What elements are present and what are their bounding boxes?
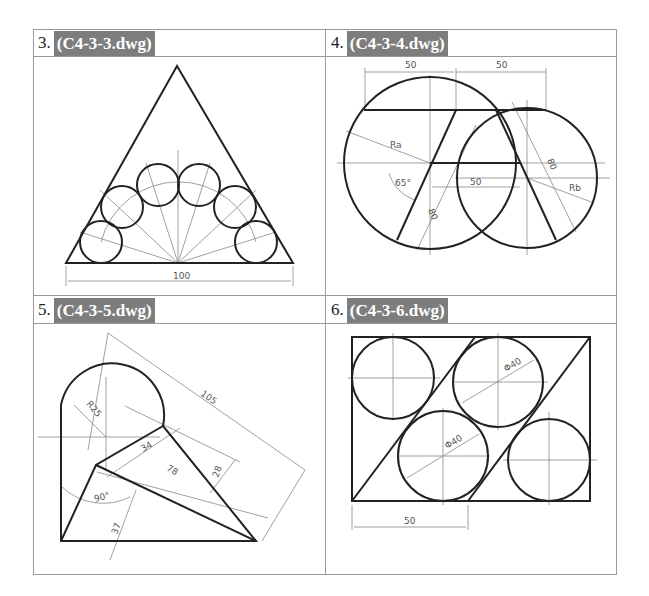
svg-text:R25: R25 — [84, 399, 103, 419]
svg-text:Ra: Ra — [390, 140, 402, 150]
svg-text:50: 50 — [405, 60, 417, 70]
svg-text:50: 50 — [404, 516, 416, 526]
svg-text:50: 50 — [496, 60, 508, 70]
drawing-arc-triangles: R25 105 34 78 28 90° 37 — [38, 333, 305, 560]
svg-text:Φ40: Φ40 — [502, 356, 523, 374]
svg-text:Φ40: Φ40 — [443, 433, 464, 451]
svg-text:28: 28 — [210, 464, 223, 478]
svg-text:78: 78 — [165, 463, 180, 477]
svg-text:105: 105 — [199, 388, 219, 406]
svg-text:80: 80 — [545, 157, 559, 172]
drawing-two-circles: 50 50 Ra Rb 65° 50 80 80 — [337, 60, 610, 255]
cad-drawings: 100 50 50 Ra Rb 65° 50 80 80 — [0, 0, 649, 596]
svg-text:37: 37 — [109, 522, 122, 536]
drawing-triangle-circles: 100 — [66, 66, 293, 286]
svg-text:90°: 90° — [93, 490, 111, 504]
drawing-rectangle-circles: Φ40 Φ40 50 — [348, 333, 597, 530]
svg-text:65°: 65° — [395, 178, 411, 188]
svg-text:80: 80 — [426, 207, 440, 222]
svg-text:34: 34 — [139, 439, 154, 454]
svg-text:50: 50 — [470, 177, 482, 187]
svg-text:100: 100 — [173, 271, 190, 281]
svg-text:Rb: Rb — [569, 183, 581, 193]
